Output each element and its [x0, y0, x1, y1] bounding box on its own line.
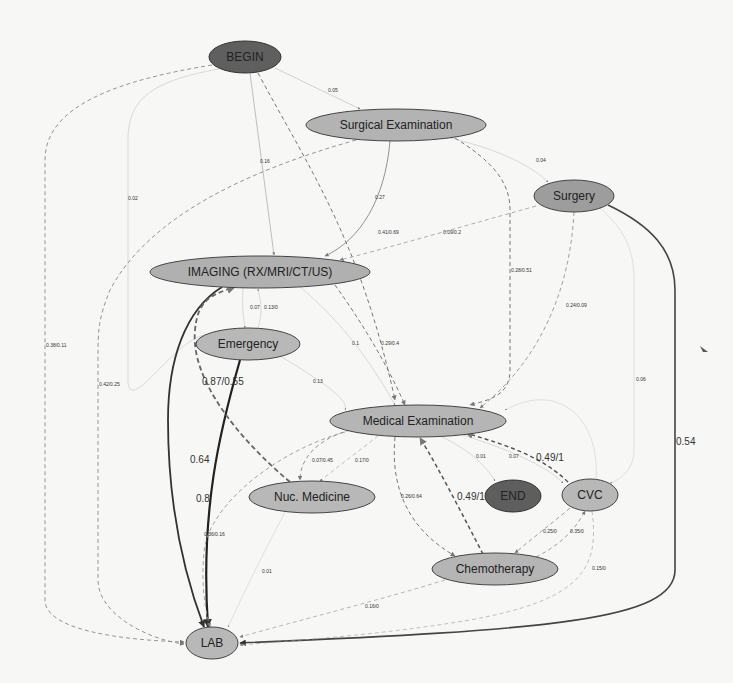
- edge-label: 0.8: [196, 493, 210, 504]
- node-label: Chemotherapy: [456, 562, 535, 576]
- edge-label: 0.35/0: [570, 528, 584, 534]
- node-label: LAB: [201, 636, 224, 650]
- edge-surgexam-medexam: [455, 138, 510, 405]
- edge-label: 0.64: [190, 454, 210, 465]
- node-label: Nuc. Medicine: [274, 490, 350, 504]
- node-label: BEGIN: [226, 50, 263, 64]
- edge-label: 0.17/0: [355, 457, 369, 463]
- node-label: Surgery: [553, 189, 595, 203]
- node-emergency[interactable]: Emergency: [196, 328, 300, 360]
- edge-label: 0.25/0: [543, 528, 557, 534]
- edge-label: 0.24/0.09: [566, 302, 587, 308]
- edge-begin-lab: [45, 65, 212, 642]
- edge-label: 0.02: [128, 195, 138, 201]
- edge-surgery-medexam: [480, 212, 574, 408]
- cursor-icon: [700, 346, 708, 352]
- edge-medexam-end: [440, 436, 495, 481]
- edge-label: 0.41/0.69: [378, 229, 399, 235]
- edge-label: 0.09/0.2: [443, 229, 461, 235]
- node-cvc[interactable]: CVC: [562, 479, 618, 511]
- edge-begin-imaging: [250, 73, 274, 255]
- edge-label: 0.49/1: [536, 452, 564, 463]
- node-end[interactable]: END: [485, 480, 541, 512]
- node-label: Medical Examination: [363, 414, 474, 428]
- edge-label: 0.27: [375, 194, 385, 200]
- edge-label: 0.38/0.11: [46, 342, 67, 348]
- node-label: Emergency: [218, 337, 279, 351]
- edge-label: 0.04: [536, 157, 546, 163]
- edge-chemo-lab: [240, 580, 445, 637]
- nodes: BEGIN Surgical Examination Surgery IMAGI…: [150, 41, 618, 659]
- edge-label: 0.28/0.51: [511, 267, 532, 273]
- edge-label: 0.01: [262, 568, 272, 574]
- edge-label: 0.1: [352, 340, 359, 346]
- edges: 0.38/0.11 0.02 0.05 0.16 0.41/0.69 0.27 …: [45, 65, 696, 645]
- edge-label: 0.05: [328, 87, 338, 93]
- node-nuc-medicine[interactable]: Nuc. Medicine: [249, 481, 375, 513]
- process-graph: 0.38/0.11 0.02 0.05 0.16 0.41/0.69 0.27 …: [0, 0, 733, 683]
- edge-label: 0.07/0.45: [312, 457, 333, 463]
- edge-imaging-medexam-a: [300, 287, 395, 405]
- edge-medexam-nuc-a: [300, 430, 350, 480]
- edge-surgexam-lab: [98, 140, 356, 644]
- edge-imaging-emergency: [243, 288, 245, 328]
- edge-label: 0.13: [313, 378, 323, 384]
- node-begin[interactable]: BEGIN: [209, 41, 281, 73]
- edge-label: 0.36/0.16: [204, 531, 225, 537]
- edge-surgery-cvc: [600, 208, 634, 483]
- edge-begin-surgexam: [275, 68, 360, 109]
- edge-label: 0.16: [260, 158, 270, 164]
- node-surgical-examination[interactable]: Surgical Examination: [306, 109, 486, 141]
- edge-chemo-cvc: [536, 511, 585, 557]
- node-label: CVC: [577, 488, 603, 502]
- edge-label: 0.07: [250, 304, 260, 310]
- node-chemotherapy[interactable]: Chemotherapy: [432, 553, 558, 585]
- edge-nuc-lab: [228, 512, 285, 627]
- node-medical-examination[interactable]: Medical Examination: [330, 405, 506, 437]
- node-label: END: [500, 489, 526, 503]
- node-label: Surgical Examination: [340, 118, 453, 132]
- edge-emergency-lab: [206, 360, 240, 627]
- edge-label: 0.54: [676, 436, 696, 447]
- edge-label: 0.87/0.55: [202, 376, 244, 387]
- node-imaging[interactable]: IMAGING (RX/MRI/CT/US): [150, 256, 370, 288]
- edge-label: 0.29/0.4: [381, 340, 399, 346]
- edge-label: 0.01: [476, 453, 486, 459]
- edge-label: 0.16/0: [365, 603, 379, 609]
- node-label: IMAGING (RX/MRI/CT/US): [188, 265, 333, 279]
- edge-label: 0.26/0.64: [401, 493, 422, 499]
- edge-label: 0.42/0.25: [99, 381, 120, 387]
- edge-label: 0.49/1: [457, 491, 485, 502]
- edge-label: 0.06: [636, 376, 646, 382]
- node-lab[interactable]: LAB: [186, 627, 238, 659]
- node-surgery[interactable]: Surgery: [534, 180, 614, 212]
- edge-label: 0.13/0: [264, 304, 278, 310]
- edge-label: 0.15/0: [592, 565, 606, 571]
- edge-label: 0.07: [509, 453, 519, 459]
